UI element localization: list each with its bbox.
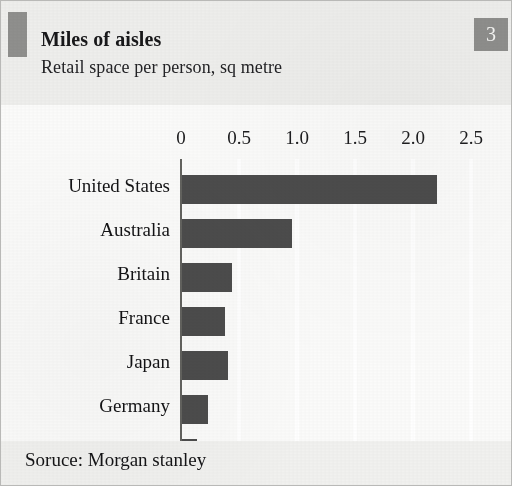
bar-row: Britain bbox=[1, 255, 512, 299]
chart-number-badge: 3 bbox=[474, 18, 508, 51]
bar bbox=[182, 263, 232, 292]
bar-row: Japan bbox=[1, 343, 512, 387]
source-note: Soruce: Morgan stanley bbox=[25, 449, 206, 471]
bar-row: Germany bbox=[1, 387, 512, 431]
x-tick-label: 2.5 bbox=[459, 127, 483, 149]
x-tick-label: 0.5 bbox=[227, 127, 251, 149]
category-label: France bbox=[118, 307, 170, 329]
bar bbox=[182, 307, 225, 336]
bar bbox=[182, 219, 292, 248]
bar-row: United States bbox=[1, 167, 512, 211]
bar bbox=[182, 351, 228, 380]
bar-row: Australia bbox=[1, 211, 512, 255]
category-label: Britain bbox=[117, 263, 170, 285]
x-tick-label: 0 bbox=[176, 127, 186, 149]
bar bbox=[182, 395, 208, 424]
bar bbox=[182, 175, 437, 204]
chart-figure: 3 Miles of aisles Retail space per perso… bbox=[0, 0, 512, 486]
chart-footer: Soruce: Morgan stanley bbox=[1, 441, 512, 486]
bar-row: France bbox=[1, 299, 512, 343]
left-accent-rule bbox=[8, 12, 27, 57]
x-tick-label: 1.5 bbox=[343, 127, 367, 149]
category-label: United States bbox=[68, 175, 170, 197]
plot-area: 00.51.01.52.02.5 United StatesAustraliaB… bbox=[1, 105, 512, 441]
category-label: Japan bbox=[127, 351, 170, 373]
category-label: Germany bbox=[99, 395, 170, 417]
x-tick-label: 1.0 bbox=[285, 127, 309, 149]
category-label: Australia bbox=[100, 219, 170, 241]
x-tick-label: 2.0 bbox=[401, 127, 425, 149]
chart-header: 3 Miles of aisles Retail space per perso… bbox=[1, 1, 512, 105]
chart-subtitle: Retail space per person, sq metre bbox=[41, 57, 282, 78]
chart-title: Miles of aisles bbox=[41, 28, 161, 51]
